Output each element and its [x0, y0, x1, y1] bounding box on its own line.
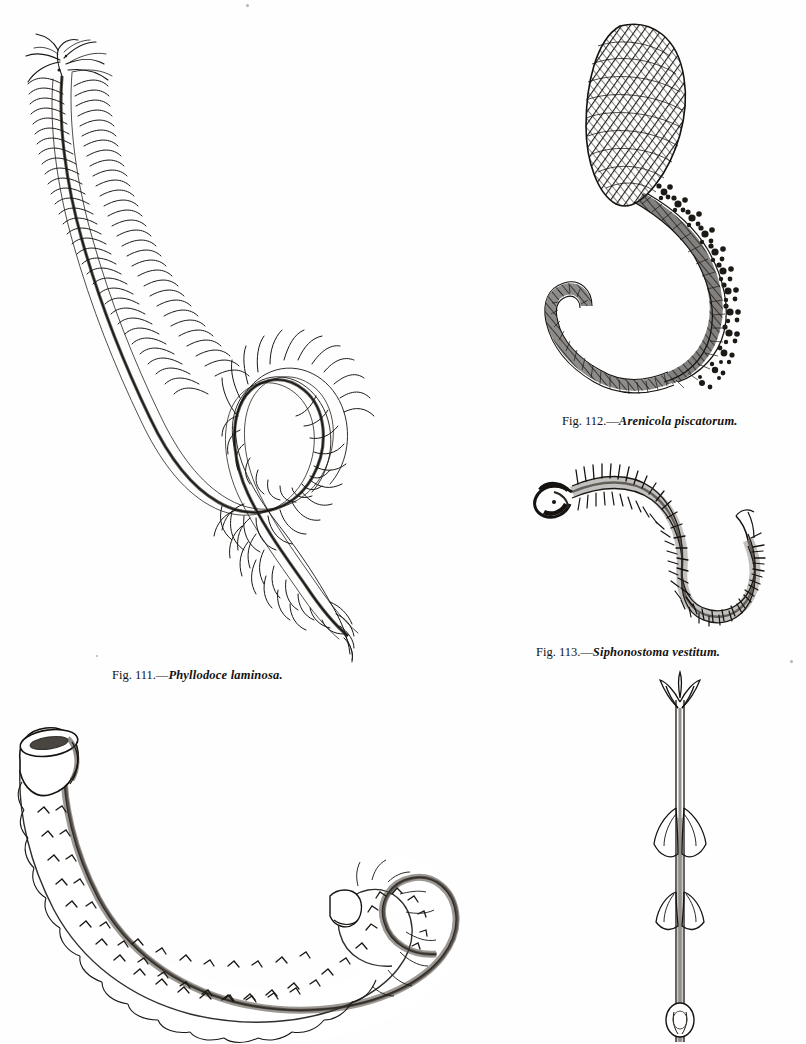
worm-tube-body [18, 758, 457, 1043]
caption-species-111: Phyllodoce laminosa. [168, 668, 282, 682]
stalk-basal-node [666, 1003, 694, 1037]
arenicola-tail [545, 282, 674, 394]
paper-speck [790, 660, 793, 663]
figure-stalk [620, 668, 750, 1044]
stalk-apex-sheath [660, 672, 700, 708]
siphonostoma-body [572, 464, 765, 626]
siphonostoma-head [535, 484, 572, 517]
caption-fig-112: Fig. 112.—Arenicola piscatorum. [562, 414, 738, 429]
worm-tube-funnel [18, 726, 79, 795]
paper-speck [246, 4, 249, 7]
worm-tube-flap [330, 890, 361, 927]
phyllodoce-body [28, 73, 374, 662]
caption-species-112: Arenicola piscatorum. [619, 414, 738, 428]
caption-species-113: Siphonostoma vestitum. [593, 645, 720, 659]
stalk-shaft [676, 700, 684, 1042]
phyllodoce-head [26, 34, 112, 82]
figure-siphonostoma-vestitum [524, 450, 804, 640]
caption-lead-111: Fig. 111.— [112, 668, 168, 682]
caption-fig-113: Fig. 113.—Siphonostoma vestitum. [536, 645, 720, 660]
arenicola-anterior [586, 24, 685, 206]
caption-fig-111: Fig. 111.—Phyllodoce laminosa. [112, 668, 283, 683]
figure-phyllodoce-laminosa [0, 14, 420, 664]
illustration-plate: Fig. 111.—Phyllodoce laminosa. Fig. 112.… [0, 0, 806, 1044]
figure-arenicola-piscatorum [528, 12, 800, 402]
arenicola-gill-region [634, 183, 741, 389]
figure-worm-tube [0, 712, 520, 1044]
caption-lead-113: Fig. 113.— [536, 645, 593, 659]
siphonostoma-tail [736, 510, 754, 540]
caption-lead-112: Fig. 112.— [562, 414, 619, 428]
